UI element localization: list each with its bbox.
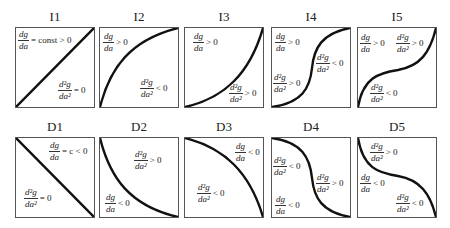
panel-frame: dgda< 0d²gda²< 0 bbox=[184, 137, 264, 218]
numerator: dg bbox=[235, 142, 246, 153]
denominator: da² bbox=[24, 199, 38, 209]
fraction: d²gda² bbox=[396, 33, 410, 54]
panel-i1: I1dgda= const > 0d²gda²= 0 bbox=[15, 27, 95, 108]
denominator: da bbox=[193, 43, 204, 53]
derivative-label: d²gda²> 0 bbox=[134, 150, 162, 171]
fraction: d²gda² bbox=[229, 83, 243, 104]
relation: < 0 bbox=[373, 179, 385, 188]
panel-frame: dgda= const > 0d²gda²= 0 bbox=[15, 27, 95, 108]
relation: > 0 bbox=[373, 39, 385, 48]
derivative-label: dgda< 0 bbox=[105, 193, 130, 214]
relation: = 0 bbox=[40, 194, 52, 203]
fraction: d²gda² bbox=[396, 193, 410, 214]
relation: < 0 bbox=[332, 59, 344, 68]
denominator: da bbox=[235, 153, 246, 163]
panel-i4: I4dgda> 0d²gda²< 0d²gda²> 0 bbox=[271, 27, 351, 108]
denominator: da² bbox=[316, 64, 330, 74]
relation: > 0 bbox=[150, 156, 162, 165]
denominator: da² bbox=[197, 194, 211, 204]
panel-title: D1 bbox=[15, 120, 95, 134]
derivative-label: dgda= c < 0 bbox=[49, 141, 87, 162]
fraction: dgda bbox=[103, 32, 114, 53]
panel-title: D2 bbox=[99, 120, 179, 134]
derivative-label: d²gda²> 0 bbox=[370, 142, 398, 163]
relation: < 0 bbox=[386, 89, 398, 98]
panel-frame: dgda> 0d²gda²< 0 bbox=[99, 27, 179, 108]
panel-d2: D2d²gda²> 0dgda< 0 bbox=[99, 137, 179, 218]
derivative-label: d²gda²> 0 bbox=[273, 73, 301, 94]
panel-title: I4 bbox=[271, 10, 351, 24]
derivative-label: dgda> 0 bbox=[103, 32, 128, 53]
fraction: d²gda² bbox=[273, 156, 287, 177]
relation: < 0 bbox=[156, 84, 168, 93]
derivative-label: d²gda²< 0 bbox=[197, 183, 225, 204]
numerator: dg bbox=[360, 33, 371, 44]
fraction: d²gda² bbox=[58, 80, 72, 101]
numerator: d²g bbox=[370, 142, 384, 153]
numerator: d²g bbox=[197, 183, 211, 194]
numerator: d²g bbox=[273, 156, 287, 167]
denominator: da bbox=[275, 43, 286, 53]
fraction: d²gda² bbox=[134, 150, 148, 171]
denominator: da bbox=[49, 152, 60, 162]
denominator: da bbox=[103, 43, 114, 53]
denominator: da² bbox=[396, 44, 410, 54]
derivative-label: d²gda²> 0 bbox=[396, 33, 424, 54]
relation: > 0 bbox=[245, 89, 257, 98]
relation: > 0 bbox=[288, 38, 300, 47]
derivative-label: dgda< 0 bbox=[235, 142, 260, 163]
panel-frame: dgda> 0d²gda²> 0 bbox=[184, 27, 264, 108]
panel-title: I5 bbox=[357, 10, 437, 24]
panel-title: I3 bbox=[184, 10, 264, 24]
numerator: d²g bbox=[396, 193, 410, 204]
numerator: dg bbox=[275, 195, 286, 206]
panel-d1: D1dgda= c < 0d²gda²= 0 bbox=[15, 137, 95, 218]
panel-frame: d²gda²< 0d²gda²> 0dgda< 0 bbox=[271, 137, 351, 218]
panel-i2: I2dgda> 0d²gda²< 0 bbox=[99, 27, 179, 108]
panel-frame: d²gda²> 0dgda< 0d²gda²< 0 bbox=[357, 137, 437, 218]
relation: > 0 bbox=[289, 79, 301, 88]
panel-title: D5 bbox=[357, 120, 437, 134]
denominator: da² bbox=[370, 94, 384, 104]
panel-title: D4 bbox=[271, 120, 351, 134]
relation: < 0 bbox=[288, 201, 300, 210]
fraction: dgda bbox=[275, 32, 286, 53]
derivative-label: dgda< 0 bbox=[275, 195, 300, 216]
denominator: da² bbox=[370, 153, 384, 163]
fraction: dgda bbox=[360, 173, 371, 194]
relation: = 0 bbox=[74, 86, 86, 95]
fraction: d²gda² bbox=[140, 78, 154, 99]
panel-i5: I5dgda> 0d²gda²> 0d²gda²< 0 bbox=[357, 27, 437, 108]
derivative-label: dgda> 0 bbox=[275, 32, 300, 53]
denominator: da bbox=[18, 41, 29, 51]
relation: = const > 0 bbox=[31, 36, 71, 45]
derivative-label: dgda= const > 0 bbox=[18, 30, 71, 51]
denominator: da² bbox=[58, 91, 72, 101]
denominator: da bbox=[360, 184, 371, 194]
derivative-label: d²gda²> 0 bbox=[229, 83, 257, 104]
relation: < 0 bbox=[248, 148, 260, 157]
numerator: d²g bbox=[396, 33, 410, 44]
fraction: dgda bbox=[18, 30, 29, 51]
fraction: d²gda² bbox=[24, 188, 38, 209]
fraction: d²gda² bbox=[316, 173, 330, 194]
numerator: dg bbox=[360, 173, 371, 184]
fraction: dgda bbox=[193, 32, 204, 53]
numerator: d²g bbox=[316, 53, 330, 64]
derivative-label: d²gda²< 0 bbox=[273, 156, 301, 177]
derivative-label: dgda> 0 bbox=[193, 32, 218, 53]
denominator: da² bbox=[273, 167, 287, 177]
numerator: d²g bbox=[370, 83, 384, 94]
derivative-label: dgda< 0 bbox=[360, 173, 385, 194]
derivative-label: dgda> 0 bbox=[360, 33, 385, 54]
numerator: dg bbox=[103, 32, 114, 43]
numerator: d²g bbox=[316, 173, 330, 184]
panel-d5: D5d²gda²> 0dgda< 0d²gda²< 0 bbox=[357, 137, 437, 218]
relation: < 0 bbox=[412, 199, 424, 208]
relation: < 0 bbox=[289, 162, 301, 171]
fraction: dgda bbox=[105, 193, 116, 214]
fraction: dgda bbox=[360, 33, 371, 54]
numerator: dg bbox=[18, 30, 29, 41]
denominator: da² bbox=[316, 184, 330, 194]
derivative-label: d²gda²< 0 bbox=[316, 53, 344, 74]
